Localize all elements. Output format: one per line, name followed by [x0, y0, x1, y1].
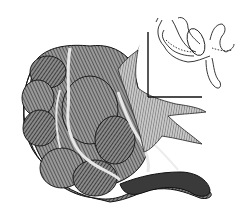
inset-frame: [148, 32, 202, 97]
illustration-canvas: [0, 0, 244, 224]
intestine-mass: [22, 45, 211, 202]
main-illustration: [0, 0, 244, 224]
inset-diagram: [156, 17, 234, 88]
